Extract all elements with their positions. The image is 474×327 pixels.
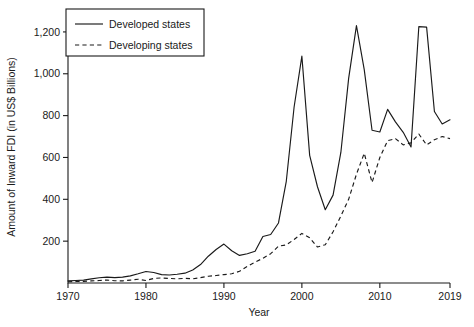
chart-canvas: 2004006008001,0001,200197019801990200020…: [0, 0, 474, 327]
x-tick-label: 1970: [56, 290, 80, 302]
x-axis-title: Year: [248, 306, 270, 318]
x-tick-label: 2019: [438, 290, 462, 302]
y-tick-label: 800: [42, 109, 60, 121]
y-tick-label: 200: [42, 235, 60, 247]
y-tick-label: 400: [42, 193, 60, 205]
series-line-1: [68, 26, 450, 281]
legend-label-2: Developing states: [109, 39, 192, 51]
y-axis-title: Amount of Inward FDI (in US$ Billions): [5, 57, 17, 237]
y-tick-label: 600: [42, 151, 60, 163]
chart-series: [68, 26, 450, 282]
x-tick-label: 2000: [290, 290, 314, 302]
fdi-line-chart: 2004006008001,0001,200197019801990200020…: [0, 0, 474, 327]
x-tick-label: 1990: [212, 290, 236, 302]
y-tick-label: 1,200: [34, 26, 60, 38]
x-tick-label: 2010: [368, 290, 392, 302]
legend-label-1: Developed states: [109, 18, 190, 30]
series-line-2: [68, 134, 450, 282]
x-tick-label: 1980: [134, 290, 158, 302]
chart-legend: Developed statesDeveloping states: [66, 9, 204, 56]
y-tick-label: 1,000: [34, 67, 60, 79]
